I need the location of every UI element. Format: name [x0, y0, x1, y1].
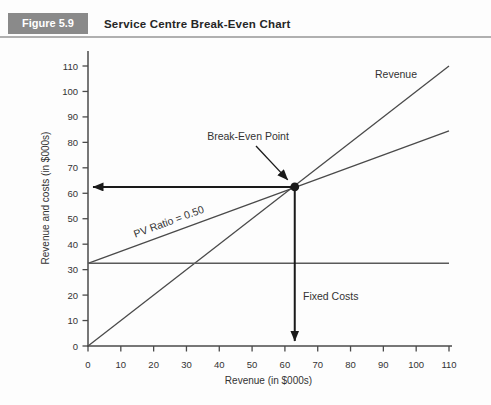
y-tick-label: 100 [62, 86, 78, 97]
break-even-chart: 0102030405060708090100110010203040506070… [0, 38, 491, 403]
x-tick-label: 60 [280, 359, 291, 370]
x-tick-label: 100 [408, 359, 424, 370]
x-tick-label: 0 [85, 359, 90, 370]
fixed-costs-label: Fixed Costs [303, 290, 358, 302]
y-tick-label: 80 [67, 137, 78, 148]
x-tick-label: 70 [312, 359, 323, 370]
figure-number-badge: Figure 5.9 [8, 13, 88, 34]
y-tick-label: 30 [67, 264, 78, 275]
x-tick-label: 110 [441, 359, 456, 370]
figure-header: Figure 5.9 Service Centre Break-Even Cha… [0, 0, 491, 34]
y-tick-label: 10 [67, 315, 78, 326]
y-tick-label: 70 [67, 162, 78, 173]
x-axis-title: Revenue (in $000s) [225, 375, 312, 386]
figure-page: Figure 5.9 Service Centre Break-Even Cha… [0, 0, 491, 405]
x-tick-label: 40 [214, 359, 225, 370]
x-tick-label: 10 [116, 359, 127, 370]
x-tick-label: 50 [247, 359, 258, 370]
x-tick-label: 80 [345, 359, 356, 370]
y-tick-label: 50 [67, 213, 78, 224]
x-tick-label: 20 [148, 359, 159, 370]
break-even-annotation-arrow [256, 146, 288, 180]
y-tick-label: 20 [67, 290, 78, 301]
x-tick-labels: 0102030405060708090100110 [85, 346, 456, 370]
y-tick-label: 110 [63, 61, 78, 72]
break-even-marker [290, 183, 299, 192]
break-even-label: Break-Even Point [207, 130, 289, 142]
revenue-line-label: Revenue [375, 68, 417, 80]
y-tick-label: 0 [73, 341, 78, 352]
figure-title: Service Centre Break-Even Chart [104, 18, 290, 30]
y-axis-title: Revenue and costs (in $000s) [40, 132, 51, 265]
x-tick-label: 30 [181, 359, 192, 370]
revenue-line [88, 66, 449, 346]
y-tick-label: 60 [67, 188, 78, 199]
x-tick-label: 90 [378, 359, 389, 370]
y-tick-label: 90 [67, 111, 78, 122]
total-cost-line [88, 131, 449, 263]
y-tick-label: 40 [67, 239, 78, 250]
y-tick-labels: 0102030405060708090100110 [62, 61, 88, 352]
